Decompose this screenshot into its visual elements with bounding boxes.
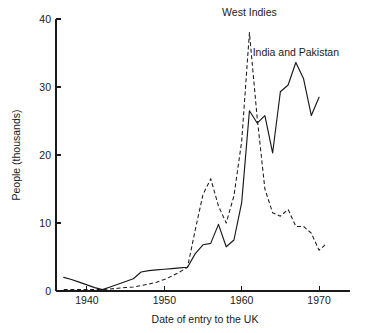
x-axis-title: Date of entry to the UK xyxy=(152,313,259,325)
y-axis-title: People (thousands) xyxy=(10,109,22,200)
series-label-west-indies: West Indies xyxy=(222,6,277,18)
x-axis-tick-labels: 1940195019601970 xyxy=(75,294,331,306)
chart-plot-area: 010203040 1940195019601970 West Indies I… xyxy=(0,0,371,333)
series-line-west-indies xyxy=(64,33,327,290)
y-axis-tick-labels: 010203040 xyxy=(39,13,51,297)
y-axis-ticks xyxy=(56,19,61,291)
y-tick-label: 40 xyxy=(39,13,51,25)
y-tick-label: 20 xyxy=(39,149,51,161)
x-axis-ticks xyxy=(87,286,319,291)
x-tick-label: 1940 xyxy=(75,294,99,306)
y-tick-label: 10 xyxy=(39,217,51,229)
y-tick-label: 30 xyxy=(39,81,51,93)
line-chart-figure: 010203040 1940195019601970 West Indies I… xyxy=(0,0,371,333)
x-tick-label: 1970 xyxy=(307,294,331,306)
x-tick-label: 1960 xyxy=(230,294,254,306)
y-tick-label: 0 xyxy=(45,285,51,297)
series-label-india-and-pakistan: India and Pakistan xyxy=(253,46,340,58)
series-line-india-and-pakistan xyxy=(64,63,319,290)
x-tick-label: 1950 xyxy=(153,294,177,306)
